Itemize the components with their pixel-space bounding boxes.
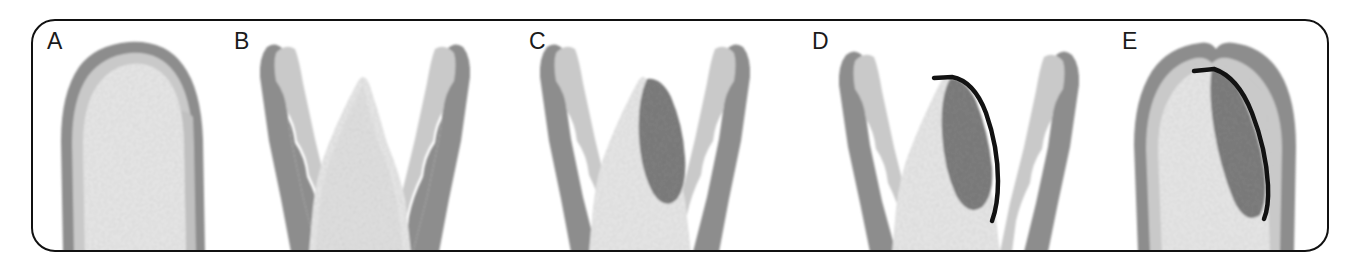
panel-d-artwork xyxy=(784,21,1094,252)
figure-root: A xyxy=(0,0,1355,265)
panel-b: B xyxy=(229,21,501,252)
panel-e: E xyxy=(1094,21,1329,252)
panel-c-artwork xyxy=(501,21,784,252)
panel-e-artwork xyxy=(1094,21,1329,252)
panel-a-artwork xyxy=(33,21,229,252)
panel-a: A xyxy=(33,21,229,252)
figure-frame: A xyxy=(31,19,1329,252)
panel-b-artwork xyxy=(229,21,501,252)
panel-c: C xyxy=(501,21,784,252)
panel-d: D xyxy=(784,21,1094,252)
